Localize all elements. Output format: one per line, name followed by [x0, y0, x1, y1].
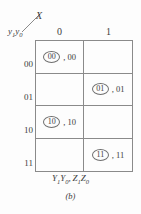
- table-cell-r2-c0[interactable]: 10 , 10: [36, 106, 84, 139]
- figure-label: (b): [0, 192, 141, 201]
- table-cell-r3-c0[interactable]: [36, 139, 84, 172]
- output-value-r2-c0: , 10: [63, 118, 76, 127]
- column-header-0: 0: [35, 27, 84, 37]
- cell-entry-r3-c1: 11 , 11: [92, 149, 124, 161]
- table-caption: Y1Y0, Z1Z0: [0, 174, 141, 185]
- table-cell-r1-c0[interactable]: [36, 74, 84, 107]
- output-value-r0-c0: , 00: [63, 53, 76, 62]
- table-cell-r3-c1[interactable]: 11 , 11: [84, 139, 132, 172]
- table-cell-r0-c0[interactable]: 00 , 00: [36, 41, 84, 74]
- cell-entry-r2-c0: 10 , 10: [43, 116, 76, 128]
- caption-separator: ,: [68, 173, 70, 183]
- cell-entry-r0-c0: 00 , 00: [43, 51, 76, 63]
- cell-entry-r1-c1: 01 , 01: [92, 83, 125, 95]
- caption-z0-sub: 0: [86, 178, 89, 185]
- circled-state-r1-c1: 01: [92, 83, 109, 95]
- row-variable-label: y1y0: [8, 27, 23, 38]
- table-cell-r2-c1[interactable]: [84, 106, 132, 139]
- state-transition-table-figure: X y1y0 0 1 00 01 10 11 00 , 00: [0, 0, 141, 214]
- circled-state-r3-c1: 11: [92, 149, 109, 161]
- row-header-01: 01: [12, 93, 33, 102]
- row-header-00: 00: [12, 60, 33, 69]
- output-value-r3-c1: , 11: [112, 151, 124, 160]
- column-header-1: 1: [84, 27, 133, 37]
- circled-state-r2-c0: 10: [43, 116, 60, 128]
- row-header-11: 11: [12, 159, 33, 168]
- table-cell-r0-c1[interactable]: [84, 41, 132, 74]
- row-header-10: 10: [12, 126, 33, 135]
- circled-state-r0-c0: 00: [43, 51, 60, 63]
- output-value-r1-c1: , 01: [112, 85, 125, 94]
- transition-table-grid: 00 , 00 01 , 01 10 , 10: [35, 40, 133, 172]
- table-cell-r1-c1[interactable]: 01 , 01: [84, 74, 132, 107]
- row-variable-y0-sub: 0: [19, 31, 22, 38]
- column-variable-label: X: [36, 11, 42, 21]
